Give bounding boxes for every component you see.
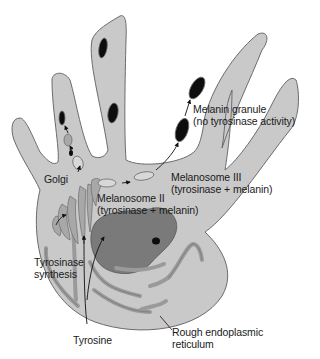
tyrosinase-synthesis-label-line2: synthesis — [34, 268, 84, 280]
melanin-granule-label-line1: Melanin granule — [193, 103, 295, 115]
melanin-granule-label-line2: (no tyrosinase activity) — [193, 115, 295, 127]
melanosome-ii-label: Melanosome II (tyrosinase + melanin) — [97, 192, 198, 216]
golgi-label: Golgi — [44, 173, 68, 185]
tyrosinase-synthesis-label-line1: Tyrosinase — [34, 256, 84, 268]
rough-er-label-line1: Rough endoplasmic — [172, 326, 263, 338]
melanosome-iii-label-line1: Melanosome III — [171, 171, 272, 183]
melanosome-ii-label-line1: Melanosome II — [97, 192, 198, 204]
rough-er-label: Rough endoplasmic reticulum — [172, 326, 263, 350]
tyrosinase-synthesis-label: Tyrosinase synthesis — [34, 256, 84, 280]
rough-er-label-line2: reticulum — [172, 338, 263, 350]
nucleolus — [152, 238, 160, 245]
melanin-granule-label: Melanin granule (no tyrosinase activity) — [193, 103, 295, 127]
melanosome-ii-label-line2: (tyrosinase + melanin) — [97, 204, 198, 216]
tyrosine-label: Tyrosine — [73, 334, 112, 346]
